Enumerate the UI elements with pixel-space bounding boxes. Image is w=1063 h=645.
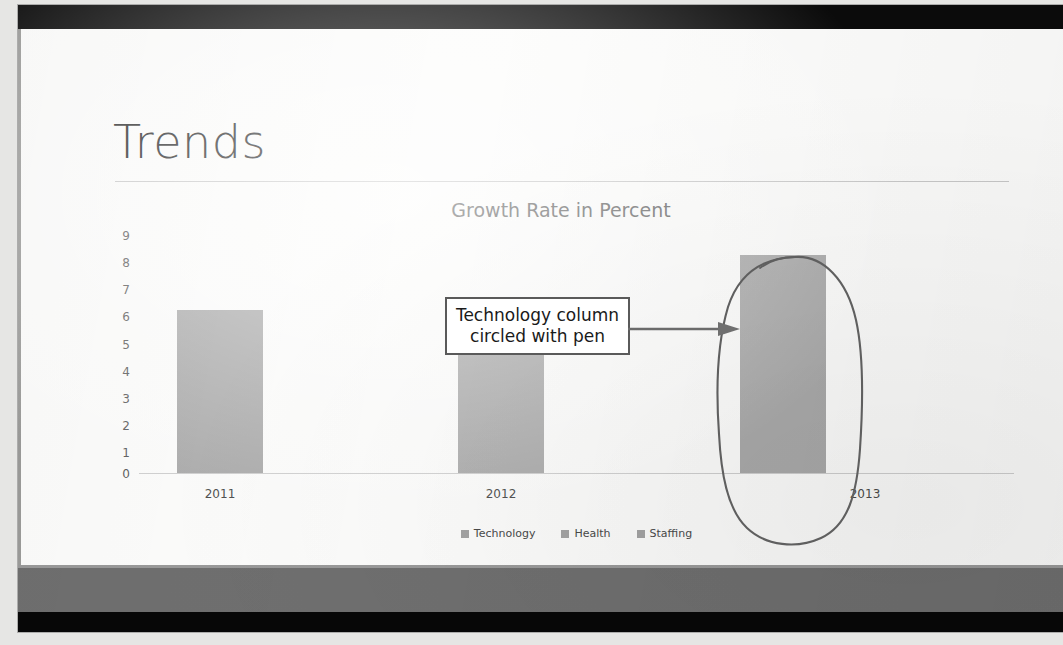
chart-title: Growth Rate in Percent bbox=[321, 199, 801, 221]
x-tick-2011: 2011 bbox=[205, 487, 236, 501]
x-tick-2012: 2012 bbox=[486, 487, 517, 501]
growth-rate-bar-chart: Growth Rate in Percent 9 8 7 6 5 4 3 2 1… bbox=[21, 29, 1063, 565]
y-tick-9: 9 bbox=[122, 229, 130, 243]
right-arrow-icon bbox=[628, 321, 740, 337]
callout-text-line2: circled with pen bbox=[470, 326, 605, 347]
slide-bottom-black-band bbox=[18, 612, 1063, 632]
legend-label-staffing: Staffing bbox=[650, 527, 693, 540]
photo-page-background: Trends Growth Rate in Percent 9 8 7 6 5 … bbox=[0, 0, 1063, 645]
y-tick-4: 4 bbox=[122, 365, 130, 379]
annotation-callout-box[interactable]: Technology column circled with pen bbox=[445, 297, 630, 355]
slide-top-black-band bbox=[18, 5, 1063, 29]
y-tick-0: 0 bbox=[122, 467, 130, 481]
y-tick-8: 8 bbox=[122, 256, 130, 270]
callout-text-line1: Technology column bbox=[456, 305, 619, 326]
bar-technology-2011[interactable] bbox=[177, 310, 263, 473]
legend-swatch-icon bbox=[461, 530, 469, 538]
legend-swatch-icon bbox=[637, 530, 645, 538]
x-tick-2013: 2013 bbox=[850, 487, 881, 501]
legend-label-health: Health bbox=[574, 527, 610, 540]
chart-legend: Technology Health Staffing bbox=[139, 527, 1014, 540]
legend-item-technology[interactable]: Technology bbox=[461, 527, 536, 540]
slide-content-area: Trends Growth Rate in Percent 9 8 7 6 5 … bbox=[21, 29, 1063, 565]
bar-technology-2013[interactable] bbox=[740, 255, 826, 473]
y-tick-5: 5 bbox=[122, 338, 130, 352]
y-tick-6: 6 bbox=[122, 310, 130, 324]
y-tick-1: 1 bbox=[122, 446, 130, 460]
slide-bottom-gray-band bbox=[18, 565, 1063, 615]
y-tick-7: 7 bbox=[122, 283, 130, 297]
legend-swatch-icon bbox=[561, 530, 569, 538]
legend-item-staffing[interactable]: Staffing bbox=[637, 527, 693, 540]
legend-item-health[interactable]: Health bbox=[561, 527, 610, 540]
legend-label-technology: Technology bbox=[474, 527, 536, 540]
x-axis-line bbox=[139, 473, 1014, 474]
presentation-slide: Trends Growth Rate in Percent 9 8 7 6 5 … bbox=[18, 5, 1063, 632]
y-tick-2: 2 bbox=[122, 419, 130, 433]
y-tick-3: 3 bbox=[122, 392, 130, 406]
